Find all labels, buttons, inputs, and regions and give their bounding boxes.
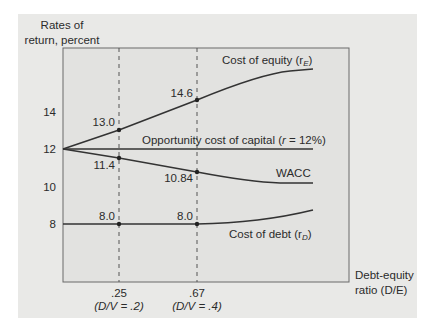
x-tick-067: .67: [189, 288, 205, 300]
opportunity-cost-label: Opportunity cost of capital (r = 12%): [142, 135, 326, 147]
point-debt-025: [117, 222, 121, 226]
x-axis-title-line2: ratio (D/E): [355, 285, 407, 297]
y-tick-14: 14: [43, 107, 56, 119]
point-wacc-067: [195, 170, 199, 174]
cost-of-equity-label: Cost of equity (rE): [222, 55, 312, 68]
point-equity-067: [195, 98, 199, 102]
point-equity-025: [117, 128, 121, 132]
y-axis-title-line1: Rates of: [41, 20, 84, 32]
x-tick-025: .25: [111, 288, 127, 300]
value-11-4: 11.4: [93, 160, 115, 172]
value-10-84: 10.84: [164, 173, 193, 185]
y-tick-12: 12: [43, 144, 56, 156]
x-tick-025-sub: (D/V = .2): [94, 301, 144, 313]
y-axis-title-line2: return, percent: [25, 35, 100, 47]
point-wacc-025: [117, 156, 121, 160]
value-8-0-a: 8.0: [99, 211, 115, 223]
value-13-0: 13.0: [93, 117, 115, 129]
cost-of-debt-label: Cost of debt (rD): [229, 229, 312, 242]
point-debt-067: [195, 222, 199, 226]
value-14-6: 14.6: [171, 88, 193, 100]
x-tick-067-sub: (D/V = .4): [172, 301, 222, 313]
wacc-label: WACC: [276, 168, 311, 180]
y-tick-8: 8: [50, 219, 56, 231]
value-8-0-b: 8.0: [177, 211, 193, 223]
y-tick-10: 10: [43, 182, 56, 194]
x-axis-title-line1: Debt-equity: [355, 270, 414, 282]
